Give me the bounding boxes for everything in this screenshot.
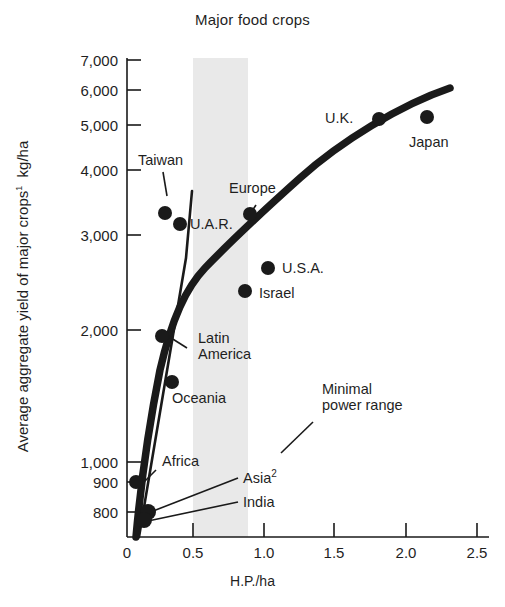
data-point-asia[interactable] (136, 512, 152, 528)
label-latin-america-line2: America (198, 346, 251, 362)
label-europe: Europe (229, 180, 276, 196)
taiwan-leader-line (163, 172, 167, 196)
label-latin-america-line1: Latin (198, 330, 229, 346)
label-asia-footnote-marker: 2 (271, 468, 277, 479)
label-latin-america: LatinAmerica (198, 330, 251, 362)
data-point-usa[interactable] (261, 261, 275, 275)
label-asia-text: Asia (243, 470, 271, 486)
data-point-europe[interactable] (243, 207, 257, 221)
data-point-africa[interactable] (129, 475, 143, 489)
label-india: India (243, 494, 274, 510)
taiwan-trend-line (139, 191, 192, 537)
y-tick-marks (127, 60, 141, 512)
label-minimal-power-range: Minimalpower range (322, 381, 403, 413)
data-point-oceania[interactable] (165, 375, 179, 389)
label-oceania: Oceania (172, 390, 226, 406)
label-uk: U.K. (325, 110, 353, 126)
label-minimal-line1: Minimal (322, 381, 372, 397)
data-point-israel[interactable] (238, 284, 252, 298)
data-point-latin-america[interactable] (155, 329, 169, 343)
label-japan: Japan (409, 134, 449, 150)
label-taiwan: Taiwan (138, 152, 183, 168)
label-africa: Africa (162, 453, 199, 469)
data-point-uk[interactable] (372, 112, 386, 126)
label-uar: U.A.R. (190, 216, 233, 232)
label-minimal-line2: power range (322, 397, 403, 413)
label-asia: Asia2 (243, 468, 277, 486)
label-usa: U.S.A. (282, 260, 324, 276)
chart-figure: Major food crops Average aggregate yield… (0, 0, 505, 607)
data-point-japan[interactable] (420, 110, 434, 124)
data-point-taiwan[interactable] (158, 206, 172, 220)
plot-area (0, 0, 505, 607)
minimal-power-range-leader-line (281, 422, 313, 453)
label-israel: Israel (259, 285, 294, 301)
minimal-power-range-band (193, 58, 248, 537)
data-point-uar[interactable] (173, 217, 187, 231)
